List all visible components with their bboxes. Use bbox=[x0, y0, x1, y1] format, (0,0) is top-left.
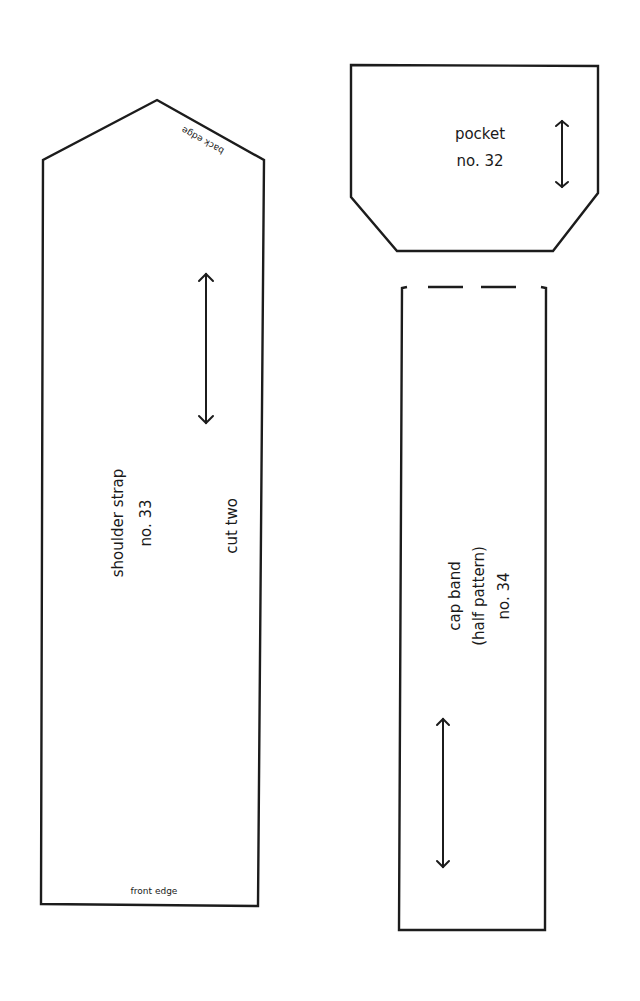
pattern-outlines bbox=[0, 0, 640, 1001]
shoulder-strap-number: no. 33 bbox=[139, 499, 154, 546]
cap-band-note: (half pattern) bbox=[472, 546, 487, 646]
pattern-sheet: shoulder strap no. 33 cut two back edge … bbox=[0, 0, 640, 1001]
pocket-number: no. 32 bbox=[456, 154, 503, 169]
cut-instruction: cut two bbox=[225, 498, 240, 554]
shoulder-strap-name: shoulder strap bbox=[111, 469, 126, 577]
cap-band-name: cap band bbox=[448, 561, 463, 630]
double-arrow-icon bbox=[437, 719, 449, 867]
cap-band-number: no. 34 bbox=[497, 572, 512, 619]
double-arrow-icon bbox=[199, 274, 213, 423]
pocket-name: pocket bbox=[455, 127, 505, 142]
front-edge-label: front edge bbox=[131, 887, 178, 896]
double-arrow-icon bbox=[556, 121, 568, 187]
